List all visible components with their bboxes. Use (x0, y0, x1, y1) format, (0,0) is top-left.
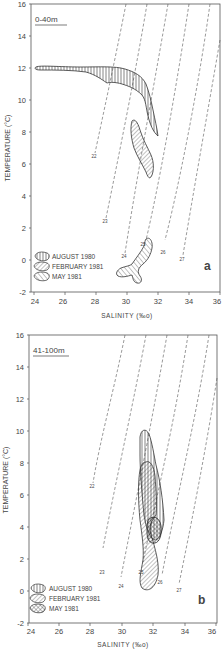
x-tick-label: 26 (59, 297, 67, 306)
y-tick-label: 8 (20, 459, 24, 468)
plot-frame-b (29, 335, 217, 623)
legend-b: AUGUST 1980 FEBRUARY 1981 MAY 1981 (30, 584, 101, 613)
plot-frame-a (31, 4, 220, 292)
x-tick-label: 36 (213, 297, 221, 306)
x-tick-label: 28 (86, 627, 94, 636)
region-august-1980-a (35, 66, 158, 136)
y-tick-label: 14 (18, 32, 26, 41)
region-february-1981-a (131, 120, 153, 178)
x-tick-label: 30 (118, 627, 126, 636)
y-tick-label: 16 (16, 331, 24, 340)
y-tick-label: -2 (19, 288, 26, 297)
isopycnal-label: 23 (102, 219, 108, 224)
isopycnal-label: 22 (91, 154, 97, 159)
panel-letter-b: b (198, 593, 205, 607)
panel-a: 16 14 12 10 8 6 4 2 0 -2 TEMPERATURE (°C… (4, 0, 221, 320)
legend-label: AUGUST 1980 (49, 585, 93, 592)
y-tick-label: 6 (20, 491, 24, 500)
legend-label: MAY 1981 (49, 605, 79, 612)
isopycnal-label: 26 (157, 580, 163, 585)
x-tick-label: 24 (27, 627, 35, 636)
x-axis-title-b: SALINITY (‰o) (97, 641, 149, 649)
x-tick-label: 26 (55, 627, 63, 636)
legend-swatch-diagonal-hatch-icon (30, 594, 45, 603)
x-tick-label: 32 (149, 627, 157, 636)
legend-item-may-1981: MAY 1981 (30, 604, 79, 613)
isopycnal-label: 27 (179, 257, 185, 262)
legend-label: AUGUST 1980 (52, 253, 96, 260)
legend-label: FEBRUARY 1981 (52, 263, 104, 270)
isopycnal-label: 24 (121, 254, 127, 259)
legend-item-february-1981: FEBRUARY 1981 (34, 262, 104, 271)
legend-item-may-1981: MAY 1981 (34, 272, 82, 281)
legend-item-august-1980: AUGUST 1980 (31, 584, 93, 593)
x-tick-label: 34 (181, 627, 189, 636)
x-tick-label: 32 (154, 297, 162, 306)
y-tick-label: 8 (22, 128, 26, 137)
legend-label: MAY 1981 (52, 273, 82, 280)
x-axis-title-a: SALINITY (‰o) (101, 312, 153, 320)
y-tick-label: 4 (20, 523, 24, 532)
y-tick-label: 12 (16, 395, 24, 404)
legend-swatch-vertical-hatch-icon (35, 252, 49, 261)
x-tick-label: 28 (91, 297, 99, 306)
region-may-1981-b (147, 517, 161, 543)
legend-item-february-1981: FEBRUARY 1981 (30, 594, 101, 603)
y-axis-title-a: TEMPERATURE (°C) (4, 115, 12, 182)
x-tick-label: 34 (185, 297, 193, 306)
y-tick-label: 6 (22, 160, 26, 169)
legend-swatch-cross-hatch-icon (30, 604, 45, 613)
y-tick-label: 4 (22, 192, 26, 201)
isopycnal-label: 22 (89, 484, 95, 489)
y-tick-label: 0 (20, 587, 24, 596)
depth-label-b: 41-100m (33, 346, 65, 355)
panel-letter-a: a (204, 259, 211, 273)
legend-a: AUGUST 1980 FEBRUARY 1981 MAY 1981 (34, 252, 104, 281)
y-tick-label: 10 (16, 427, 24, 436)
x-axis-b (28, 623, 216, 626)
legend-swatch-vertical-hatch-icon (31, 584, 45, 593)
y-tick-label: 14 (16, 363, 24, 372)
y-tick-label: 2 (22, 224, 26, 233)
ts-diagram-figure: 16 14 12 10 8 6 4 2 0 -2 TEMPERATURE (°C… (0, 0, 224, 658)
x-tick-label: 24 (31, 297, 39, 306)
legend-label: FEBRUARY 1981 (49, 595, 101, 602)
isopycnals-a (95, 4, 220, 255)
y-tick-label: 10 (18, 96, 26, 105)
panel-b: 16 14 12 10 8 6 4 2 0 -2 TEMPERATURE (°C… (2, 331, 217, 649)
isopycnal-label: 24 (118, 584, 124, 589)
isopycnal-label: 23 (99, 570, 105, 575)
legend-item-august-1980: AUGUST 1980 (35, 252, 96, 261)
isopycnal-label: 26 (160, 250, 166, 255)
x-axis-a (34, 292, 220, 295)
y-tick-label: 0 (22, 256, 26, 265)
y-tick-label: -2 (17, 619, 24, 628)
legend-swatch-diagonal-hatch-icon (34, 272, 49, 281)
isopycnal-label: 27 (176, 588, 182, 593)
x-tick-label: 36 (208, 627, 216, 636)
y-axis-title-b: TEMPERATURE (°C) (2, 447, 10, 514)
x-tick-label: 30 (122, 297, 130, 306)
y-tick-label: 2 (20, 555, 24, 564)
y-tick-label: 16 (18, 0, 26, 9)
region-may-1981-a (117, 238, 153, 283)
legend-swatch-diagonal-hatch-icon (34, 262, 49, 271)
y-tick-label: 12 (18, 64, 26, 73)
depth-label-a: 0-40m (35, 15, 58, 24)
